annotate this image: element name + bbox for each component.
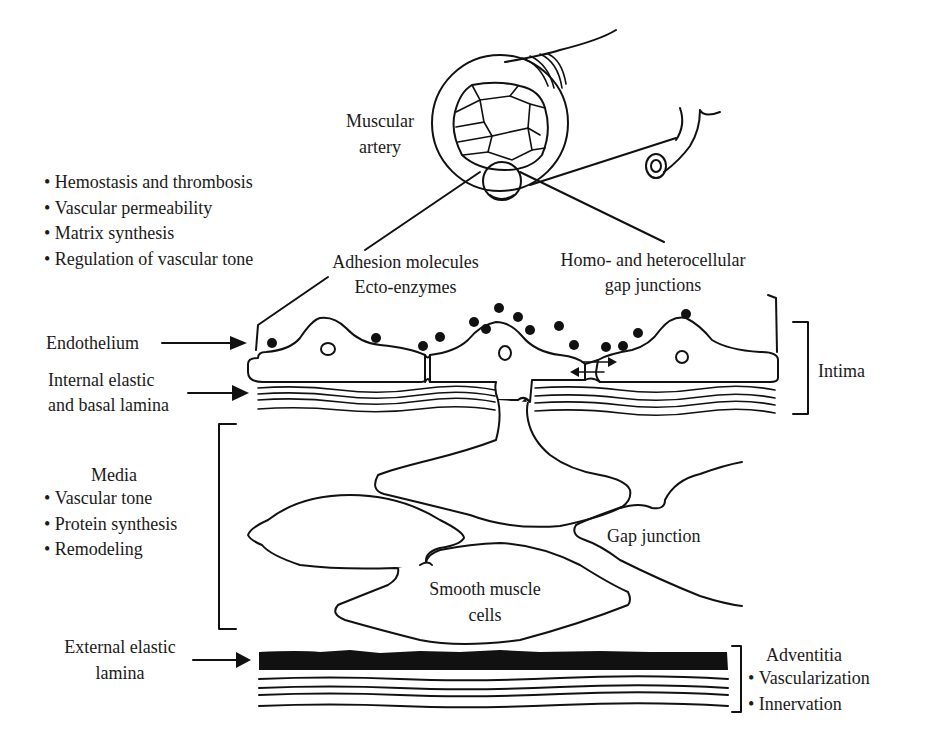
external-lamina-label: External elastic lamina xyxy=(50,634,190,686)
function-item: Vascular permeability xyxy=(44,196,253,222)
endothelium-arrow xyxy=(162,336,247,350)
function-item: Matrix synthesis xyxy=(44,221,253,247)
external-lamina-arrow xyxy=(193,652,251,668)
adventitia-title: Adventitia xyxy=(766,644,842,666)
function-item: Hemostasis and thrombosis xyxy=(44,170,253,196)
adventitia-fibers xyxy=(259,676,728,707)
gap-junctions-callout-label: Homo- and heterocellular gap junctions xyxy=(533,248,773,298)
adhesion-callout-label: Adhesion molecules Ecto-enzymes xyxy=(318,250,493,300)
function-item: Remodeling xyxy=(44,537,177,563)
intima-label: Intima xyxy=(818,360,865,382)
internal-lamina-arrow xyxy=(188,385,249,401)
function-item: Regulation of vascular tone xyxy=(44,247,253,273)
smooth-muscle-cells-label: Smooth muscle cells xyxy=(410,576,560,628)
gap-junction-label: Gap junction xyxy=(607,525,700,547)
endothelial-functions-list: Hemostasis and thrombosis Vascular perme… xyxy=(44,170,253,272)
muscular-artery-label: Muscular artery xyxy=(335,108,425,160)
adventitia-functions-list: Vascularization Innervation xyxy=(748,666,870,717)
media-title: Media xyxy=(44,464,184,486)
external-elastic-lamina xyxy=(259,650,728,670)
media-functions-list: Vascular tone Protein synthesis Remodeli… xyxy=(44,486,177,563)
function-item: Vascularization xyxy=(748,666,870,692)
function-item: Vascular tone xyxy=(44,486,177,512)
function-item: Innervation xyxy=(748,692,870,718)
endothelial-mosaic xyxy=(456,85,545,160)
endothelium-label: Endothelium xyxy=(46,332,139,354)
function-item: Protein synthesis xyxy=(44,512,177,538)
internal-lamina-label: Internal elastic and basal lamina xyxy=(48,368,169,418)
